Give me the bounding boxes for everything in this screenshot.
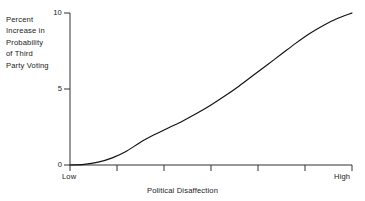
- y-axis-group: [64, 13, 70, 165]
- x-axis-group: [70, 165, 352, 171]
- plot-area-svg: [0, 0, 365, 201]
- x-axis-tick-marks: [70, 165, 352, 171]
- chart-figure: Probability of Third Party Voting Percen…: [0, 0, 365, 201]
- data-series-curve: [70, 13, 352, 165]
